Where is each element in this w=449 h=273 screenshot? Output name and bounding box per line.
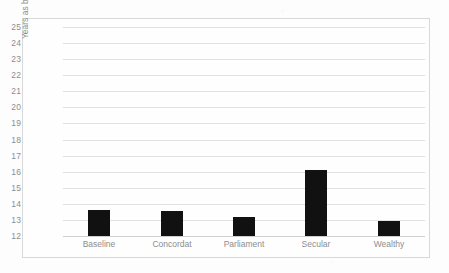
x-axis-tick-label: Secular [280,240,352,249]
bar-secular [305,170,327,236]
y-axis-title: Years as bishop [21,0,30,69]
bar-baseline [88,210,110,236]
gridline [63,188,425,189]
bar-concordat [161,211,183,236]
gridline [63,123,425,124]
y-axis-tick-label: 14 [0,200,21,209]
y-axis-tick-label: 18 [0,136,21,145]
x-axis-tick-label: Parliament [208,240,280,249]
gridline [63,172,425,173]
x-axis-line [63,236,425,237]
y-axis-tick-label: 19 [0,119,21,128]
gridline [63,27,425,28]
gridline [63,59,425,60]
plot-area: 2524232221201918171615141312BaselineConc… [63,27,425,236]
y-axis-tick-label: 15 [0,184,21,193]
x-axis-tick-label: Concordat [136,240,208,249]
gridline [63,75,425,76]
y-axis-tick-label: 13 [0,216,21,225]
y-axis-tick-label: 20 [0,103,21,112]
x-axis-tick-label: Baseline [63,240,135,249]
y-axis-tick-label: 12 [0,232,21,241]
y-axis-tick-label: 24 [0,39,21,48]
y-axis-tick-label: 17 [0,152,21,161]
gridline [63,91,425,92]
gridline [63,204,425,205]
gridline [63,107,425,108]
y-axis-tick-label: 21 [0,87,21,96]
y-axis-tick-label: 25 [0,23,21,32]
bar-parliament [233,217,255,236]
bar-wealthy [378,221,400,236]
y-axis-tick-label: 23 [0,55,21,64]
y-axis-tick-label: 22 [0,71,21,80]
gridline [63,156,425,157]
gridline [63,140,425,141]
gridline [63,43,425,44]
x-axis-tick-label: Wealthy [353,240,425,249]
chart-frame: Years as bishop 252423222120191817161514… [22,18,430,258]
y-axis-tick-label: 16 [0,168,21,177]
